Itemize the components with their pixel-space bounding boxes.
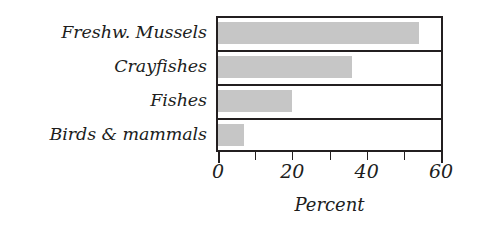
x-tick-label: 20 [280, 162, 304, 181]
x-axis-title: Percent [216, 196, 443, 214]
bar-chart-figure: Freshw. MusselsCrayfishesFishesBirds & m… [0, 0, 479, 234]
bar [218, 90, 292, 112]
chart-row [218, 84, 441, 118]
category-label: Fishes [2, 92, 207, 110]
bar [218, 124, 244, 146]
bar [218, 56, 352, 78]
x-tick [367, 152, 368, 160]
x-tick-label: 60 [429, 162, 453, 181]
bar [218, 22, 419, 44]
chart-row [218, 16, 441, 50]
x-tick [330, 152, 331, 160]
category-axis-labels: Freshw. MusselsCrayfishesFishesBirds & m… [0, 0, 207, 234]
x-tick [255, 152, 256, 160]
row-separator [218, 84, 441, 86]
chart-row [218, 118, 441, 152]
row-separator [218, 118, 441, 120]
category-label: Birds & mammals [2, 126, 207, 144]
x-tick [292, 152, 293, 160]
chart-row [218, 50, 441, 84]
x-tick-label: 40 [355, 162, 379, 181]
x-tick-label: 0 [212, 162, 224, 181]
plot-area [216, 16, 443, 152]
category-label: Freshw. Mussels [2, 24, 207, 42]
row-separator [218, 50, 441, 52]
category-label: Crayfishes [2, 58, 207, 76]
x-tick [404, 152, 405, 160]
